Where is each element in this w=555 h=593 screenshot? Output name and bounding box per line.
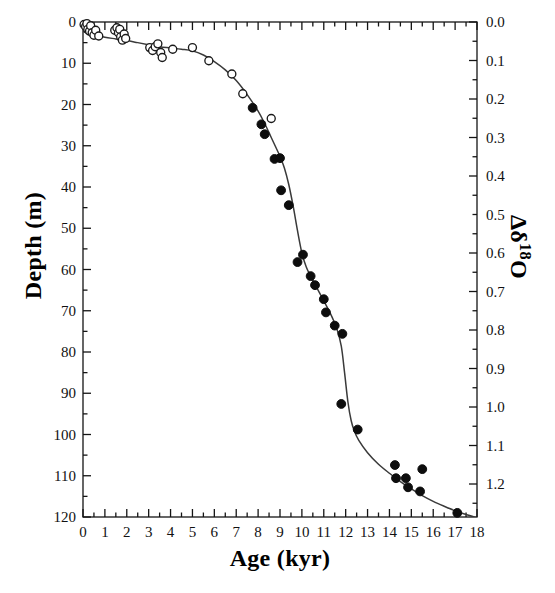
x-tick-label: 14 — [382, 524, 398, 540]
data-point-open — [239, 90, 247, 98]
y-tick-label: 50 — [61, 220, 76, 236]
data-point-open — [205, 57, 213, 65]
data-point-open — [154, 40, 162, 48]
data-point-open — [122, 35, 130, 43]
x-tick-label: 18 — [470, 524, 485, 540]
data-point-filled — [338, 329, 347, 338]
data-point-filled — [392, 474, 401, 483]
data-point-open — [267, 115, 275, 123]
y-tick-label: 80 — [61, 344, 76, 360]
data-point-filled — [391, 461, 400, 470]
plot-canvas: 0123456789101112131415161718 01020304050… — [0, 0, 555, 593]
data-point-filled — [284, 201, 293, 210]
y2-tick-label: 0.6 — [486, 245, 505, 261]
x-tick-label: 16 — [426, 524, 442, 540]
data-point-filled — [277, 186, 286, 195]
y-tick-label: 90 — [61, 385, 76, 401]
y-tick-label: 40 — [61, 179, 76, 195]
plot-frame — [83, 22, 477, 517]
x-tick-label: 15 — [404, 524, 419, 540]
x-tick-label: 5 — [189, 524, 197, 540]
data-series-filled-circles — [248, 103, 461, 517]
x-tick-label: 13 — [360, 524, 375, 540]
y-tick-label: 120 — [54, 509, 77, 525]
data-point-filled — [330, 321, 339, 330]
data-point-filled — [248, 103, 257, 112]
y-tick-label: 70 — [61, 303, 76, 319]
y2-tick-label: 0.2 — [486, 91, 505, 107]
data-point-filled — [416, 487, 425, 496]
data-point-filled — [453, 508, 462, 517]
data-point-filled — [353, 425, 362, 434]
data-point-open — [95, 32, 103, 40]
x-tick-label: 6 — [211, 524, 219, 540]
data-point-filled — [260, 130, 269, 139]
x-tick-label: 0 — [79, 524, 87, 540]
y2-tick-label: 0.0 — [486, 14, 505, 30]
y-tick-label: 10 — [61, 55, 76, 71]
data-point-filled — [299, 250, 308, 259]
y-axis-ticks — [83, 22, 91, 517]
data-point-filled — [404, 483, 413, 492]
x-axis-ticks — [83, 22, 477, 517]
data-point-filled — [306, 272, 315, 281]
y-tick-label: 20 — [61, 97, 76, 113]
data-point-filled — [401, 474, 410, 483]
data-point-open — [228, 70, 236, 78]
data-point-open — [188, 44, 196, 52]
x-axis-tick-labels: 0123456789101112131415161718 — [79, 524, 484, 540]
x-tick-label: 9 — [276, 524, 284, 540]
y2-tick-label: 1.1 — [486, 438, 505, 454]
y2-tick-label: 1.2 — [486, 476, 505, 492]
x-tick-label: 11 — [317, 524, 331, 540]
x-tick-label: 2 — [123, 524, 131, 540]
age-depth-figure: Depth (m) Δδ18O Age (kyr) 01234567891011… — [0, 0, 555, 593]
y-tick-label: 30 — [61, 138, 76, 154]
axes-rectangle — [83, 22, 477, 517]
data-point-filled — [322, 308, 331, 317]
y2-tick-label: 0.5 — [486, 207, 505, 223]
x-tick-label: 1 — [101, 524, 109, 540]
y2-axis-tick-labels: 0.00.10.20.30.40.50.60.70.80.91.01.11.2 — [486, 14, 505, 492]
y-tick-label: 0 — [69, 14, 77, 30]
y2-tick-label: 0.4 — [486, 168, 505, 184]
y-tick-label: 110 — [54, 468, 76, 484]
x-tick-label: 4 — [167, 524, 175, 540]
data-point-filled — [319, 295, 328, 304]
y2-tick-label: 0.9 — [486, 361, 505, 377]
x-tick-label: 10 — [294, 524, 309, 540]
data-point-open — [158, 53, 166, 61]
data-point-filled — [257, 120, 266, 129]
y-axis-tick-labels: 0102030405060708090100110120 — [54, 14, 77, 525]
fit-curve — [83, 31, 477, 517]
y2-tick-label: 1.0 — [486, 399, 505, 415]
y-tick-label: 100 — [54, 427, 77, 443]
data-series-open-circles — [80, 20, 275, 123]
x-tick-label: 7 — [232, 524, 240, 540]
data-point-filled — [337, 400, 346, 409]
y2-axis-ticks — [469, 22, 477, 503]
y-tick-label: 60 — [61, 262, 76, 278]
data-point-filled — [311, 281, 320, 290]
x-tick-label: 12 — [338, 524, 353, 540]
fit-curve-path — [83, 31, 477, 517]
y2-tick-label: 0.1 — [486, 53, 505, 69]
y2-tick-label: 0.8 — [486, 322, 505, 338]
data-point-filled — [418, 465, 427, 474]
y2-tick-label: 0.7 — [486, 284, 505, 300]
x-tick-label: 8 — [254, 524, 262, 540]
x-tick-label: 3 — [145, 524, 153, 540]
data-point-open — [169, 45, 177, 53]
data-point-filled — [293, 258, 302, 267]
y2-tick-label: 0.3 — [486, 130, 505, 146]
x-tick-label: 17 — [448, 524, 464, 540]
data-point-filled — [276, 154, 285, 163]
